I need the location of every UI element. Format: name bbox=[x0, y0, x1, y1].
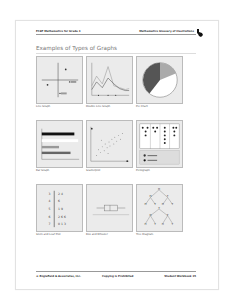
tree-diagram-icon: H HT HTHT T HT HTHT bbox=[137, 185, 182, 231]
svg-text:T: T bbox=[166, 214, 169, 217]
scatterplot-icon bbox=[87, 121, 132, 167]
svg-text:H: H bbox=[162, 203, 164, 206]
stem-and-leaf-plot-icon: 32 4 46 51 9 62 6 6 70 1 3 bbox=[37, 185, 82, 231]
footer-page: Student Workbook 35 bbox=[164, 275, 196, 278]
line-graph-tile bbox=[36, 56, 83, 104]
svg-text:5: 5 bbox=[48, 207, 50, 211]
pictograph-icon bbox=[137, 121, 182, 167]
footer-copyright: © Englefield & Associates, Inc. bbox=[36, 275, 81, 278]
graph-caption: Scatterplot bbox=[86, 169, 100, 172]
svg-text:H: H bbox=[158, 188, 160, 191]
svg-text:T: T bbox=[157, 207, 160, 210]
tree-diagram-tile: H HT HTHT T HT HTHT bbox=[136, 184, 183, 232]
svg-text:T: T bbox=[153, 223, 156, 226]
svg-text:4: 4 bbox=[48, 199, 50, 203]
footer-divider bbox=[36, 271, 196, 272]
pie-chart-icon bbox=[137, 57, 182, 103]
double-line-graph-icon bbox=[87, 57, 132, 103]
svg-text:T: T bbox=[171, 203, 174, 206]
svg-text:6: 6 bbox=[58, 199, 60, 203]
svg-text:H: H bbox=[149, 195, 151, 198]
florida-state-icon bbox=[194, 28, 204, 38]
graph-caption: Pie Chart bbox=[136, 105, 148, 108]
svg-text:6: 6 bbox=[48, 215, 50, 219]
svg-text:7: 7 bbox=[48, 222, 50, 226]
svg-text:T: T bbox=[166, 195, 169, 198]
graph-caption: Double Line Graph bbox=[86, 105, 110, 108]
svg-text:T: T bbox=[153, 203, 156, 206]
svg-text:2 6 6: 2 6 6 bbox=[58, 215, 66, 219]
page-title: Examples of Types of Graphs bbox=[36, 45, 117, 51]
svg-text:3: 3 bbox=[48, 192, 50, 196]
pictograph-tile bbox=[136, 120, 183, 168]
bar-graph-icon bbox=[37, 121, 82, 167]
document-page: FCAT Mathematics for Grade 3 Mathematics… bbox=[15, 20, 219, 290]
svg-text:H: H bbox=[149, 214, 151, 217]
graph-caption: Tree Diagram bbox=[136, 233, 153, 236]
box-and-whisker-tile bbox=[86, 184, 133, 232]
scatterplot-tile bbox=[86, 120, 133, 168]
coordinate-plane-graph-icon bbox=[37, 57, 82, 103]
graph-caption: Line Graph bbox=[36, 105, 50, 108]
header-left: FCAT Mathematics for Grade 3 bbox=[36, 30, 80, 33]
pie-chart-tile bbox=[136, 56, 183, 104]
graph-caption: Box and Whisker bbox=[86, 233, 108, 236]
title-divider bbox=[36, 53, 196, 54]
box-and-whisker-icon bbox=[87, 185, 132, 231]
graph-caption: Bar Graph bbox=[36, 169, 49, 172]
svg-text:2 4: 2 4 bbox=[58, 192, 63, 196]
graph-caption: Pictograph bbox=[136, 169, 150, 172]
svg-text:T: T bbox=[171, 223, 174, 226]
svg-text:H: H bbox=[145, 223, 147, 226]
bar-graph-tile bbox=[36, 120, 83, 168]
stem-and-leaf-tile: 32 4 46 51 9 62 6 6 70 1 3 bbox=[36, 184, 83, 232]
svg-text:H: H bbox=[162, 223, 164, 226]
footer-notice: Copying is Prohibited bbox=[102, 275, 133, 278]
double-line-graph-tile bbox=[86, 56, 133, 104]
header-divider bbox=[36, 34, 196, 35]
header-right: Mathematics Glossary of Illustrations bbox=[139, 30, 194, 33]
svg-text:H: H bbox=[145, 203, 147, 206]
svg-text:0 1 3: 0 1 3 bbox=[58, 222, 66, 226]
svg-text:1 9: 1 9 bbox=[58, 207, 63, 211]
graph-caption: Stem and Leaf Plot bbox=[36, 233, 61, 236]
